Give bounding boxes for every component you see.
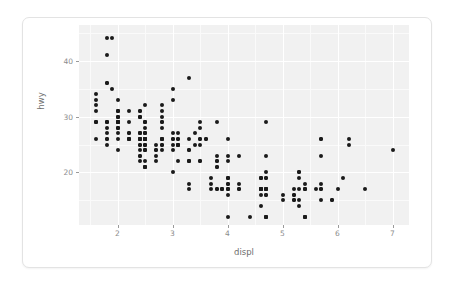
- data-point: [297, 187, 301, 191]
- data-point: [94, 137, 98, 141]
- data-point: [143, 137, 147, 141]
- data-point: [138, 143, 142, 147]
- data-point: [226, 215, 230, 219]
- data-point: [198, 126, 202, 130]
- data-point: [319, 154, 323, 158]
- data-point: [226, 187, 230, 191]
- data-point: [204, 137, 208, 141]
- data-point: [226, 159, 230, 163]
- data-point: [281, 198, 285, 202]
- data-point: [187, 148, 191, 152]
- data-point: [105, 137, 109, 141]
- data-point: [303, 187, 307, 191]
- data-point: [347, 143, 351, 147]
- data-point: [226, 176, 230, 180]
- data-point: [143, 131, 147, 135]
- data-point: [143, 159, 147, 163]
- gridline-minor-horizontal: [79, 200, 409, 201]
- gridline-major-vertical: [338, 25, 339, 225]
- data-point: [314, 187, 318, 191]
- data-point: [391, 148, 395, 152]
- data-point: [209, 182, 213, 186]
- data-point: [176, 159, 180, 163]
- data-point: [187, 137, 191, 141]
- data-point: [105, 126, 109, 130]
- data-point: [259, 187, 263, 191]
- data-point: [94, 98, 98, 102]
- data-point: [94, 120, 98, 124]
- data-point: [281, 193, 285, 197]
- gridline-minor-vertical: [200, 25, 201, 225]
- data-point: [143, 120, 147, 124]
- data-point: [110, 36, 114, 40]
- data-point: [160, 103, 164, 107]
- data-point: [292, 193, 296, 197]
- x-axis-tick-label: 3: [170, 229, 175, 238]
- data-point: [138, 109, 142, 113]
- x-axis-tick: [173, 225, 174, 228]
- data-point: [94, 92, 98, 96]
- data-point: [154, 154, 158, 158]
- gridline-minor-horizontal: [79, 89, 409, 90]
- data-point: [116, 126, 120, 130]
- data-point: [264, 187, 268, 191]
- gridline-minor-horizontal: [79, 145, 409, 146]
- y-axis-tick: [76, 172, 79, 173]
- data-point: [154, 148, 158, 152]
- data-point: [264, 120, 268, 124]
- data-point: [138, 148, 142, 152]
- data-point: [105, 36, 109, 40]
- data-point: [105, 81, 109, 85]
- data-point: [264, 193, 268, 197]
- x-axis-tick: [118, 225, 119, 228]
- data-point: [187, 76, 191, 80]
- gridline-major-horizontal: [79, 172, 409, 173]
- data-point: [264, 176, 268, 180]
- data-point: [226, 137, 230, 141]
- data-point: [171, 170, 175, 174]
- data-point: [319, 137, 323, 141]
- data-point: [143, 165, 147, 169]
- data-point: [171, 148, 175, 152]
- data-point: [209, 187, 213, 191]
- data-point: [160, 137, 164, 141]
- x-axis-label: displ: [79, 247, 409, 257]
- gridline-minor-horizontal: [79, 33, 409, 34]
- data-point: [303, 215, 307, 219]
- data-point: [198, 159, 202, 163]
- data-point: [319, 187, 323, 191]
- x-axis-tick-label: 2: [115, 229, 120, 238]
- data-point: [319, 198, 323, 202]
- data-point: [226, 154, 230, 158]
- data-point: [259, 204, 263, 208]
- data-point: [215, 154, 219, 158]
- gridline-minor-vertical: [90, 25, 91, 225]
- data-point: [259, 176, 263, 180]
- data-point: [297, 198, 301, 202]
- data-point: [297, 170, 301, 174]
- x-axis-tick-label: 4: [225, 229, 230, 238]
- data-point: [171, 137, 175, 141]
- data-point: [116, 109, 120, 113]
- data-point: [143, 126, 147, 130]
- data-point: [110, 87, 114, 91]
- data-point: [138, 154, 142, 158]
- data-point: [264, 170, 268, 174]
- data-point: [319, 182, 323, 186]
- data-point: [94, 109, 98, 113]
- y-axis-tick: [76, 117, 79, 118]
- x-axis-tick-label: 6: [335, 229, 340, 238]
- data-point: [105, 143, 109, 147]
- data-point: [259, 193, 263, 197]
- gridline-major-vertical: [393, 25, 394, 225]
- data-point: [292, 187, 296, 191]
- data-point: [116, 131, 120, 135]
- gridline-minor-vertical: [310, 25, 311, 225]
- data-point: [116, 115, 120, 119]
- chart-card: displ hwy 234567203040: [22, 17, 432, 268]
- data-point: [187, 182, 191, 186]
- y-axis-label: hwy: [36, 71, 46, 131]
- data-point: [248, 215, 252, 219]
- data-point: [215, 165, 219, 169]
- data-point: [138, 137, 142, 141]
